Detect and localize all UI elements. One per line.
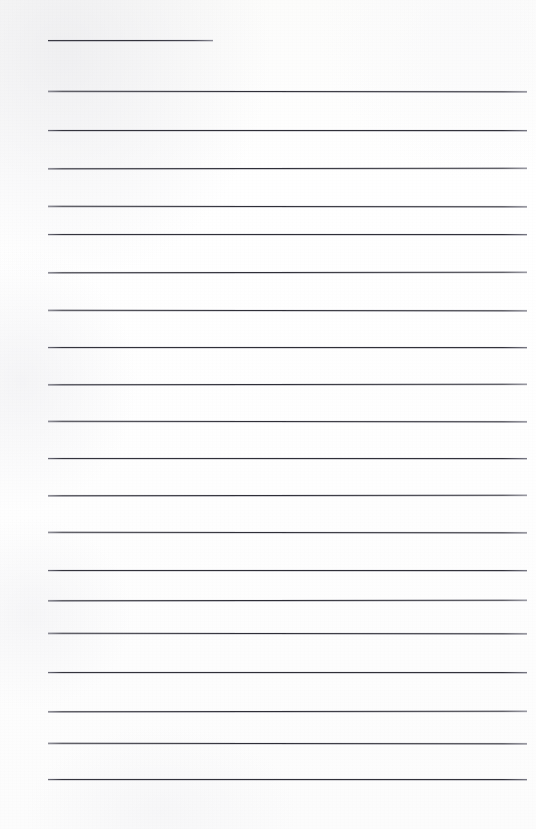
body-rule-5 [48, 234, 527, 235]
body-rule-2 [48, 130, 527, 131]
body-rule-4 [48, 206, 527, 207]
body-rule-10 [48, 421, 527, 422]
scanned-page [0, 0, 536, 829]
body-rule-7 [48, 310, 527, 311]
body-rule-6 [48, 272, 527, 274]
body-rule-15 [48, 600, 527, 602]
paper-grain-overlay [0, 0, 536, 829]
body-rule-17 [48, 672, 527, 673]
body-rule-20 [48, 779, 527, 780]
body-rule-12 [48, 495, 527, 497]
body-rule-13 [48, 532, 527, 533]
body-rule-9 [48, 384, 527, 386]
body-rule-19 [48, 743, 527, 744]
paper-background-texture [0, 0, 536, 829]
title-rule [48, 40, 213, 41]
body-rule-3 [48, 168, 527, 170]
body-rule-18 [48, 711, 527, 713]
body-rule-1 [48, 91, 527, 92]
body-rule-8 [48, 347, 527, 348]
body-rule-16 [48, 633, 527, 634]
body-rule-14 [48, 570, 527, 571]
body-rule-11 [48, 458, 527, 459]
